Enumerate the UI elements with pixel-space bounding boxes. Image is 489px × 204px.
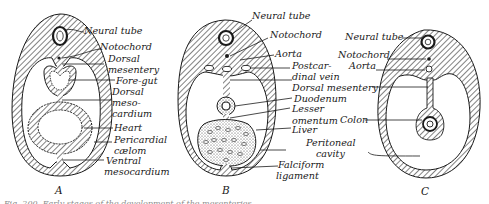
panel-label-c: C <box>421 185 429 197</box>
label-ventral-mesocardium-1: Ventral <box>106 155 141 166</box>
panel-label-a: A <box>54 184 63 196</box>
panel-label-b: B <box>221 184 230 196</box>
label-postcardinal-vein-2: dinal vein <box>292 71 340 82</box>
label-neural-tube-b: Neural tube <box>251 10 311 21</box>
notochord-c <box>427 57 431 61</box>
label-heart: Heart <box>113 122 142 133</box>
label-falciform-ligament-2: ligament <box>276 170 319 181</box>
dorsal-mesentery-b <box>223 74 230 98</box>
label-neural-tube-c: Neural tube <box>344 31 404 42</box>
postcardinal-vein-left <box>205 65 214 70</box>
label-notochord-a: Notochord <box>99 41 152 52</box>
dorsal-mesentery-a <box>57 62 63 72</box>
duodenum-lumen <box>222 102 230 110</box>
label-liver: Liver <box>291 124 319 135</box>
label-fore-gut: Fore-gut <box>115 75 158 86</box>
label-aorta-c: Aorta <box>348 60 376 71</box>
label-colon: Colon <box>340 114 368 125</box>
notochord-a <box>57 56 60 59</box>
figure-caption-partial: Fig. 200. Early stages of the developmen… <box>3 199 259 204</box>
label-pericardial-coelom-1: Pericardial <box>113 134 167 145</box>
aorta-c <box>426 66 432 72</box>
notochord-b <box>225 54 229 58</box>
label-notochord-c: Notochord <box>337 49 390 60</box>
label-peritoneal-cavity-2: cavity <box>316 148 345 159</box>
ventral-mesocardium <box>57 153 63 164</box>
postcardinal-vein-right <box>242 65 251 70</box>
label-ventral-mesocardium-2: mesocardium <box>104 166 170 177</box>
label-aorta-b: Aorta <box>274 48 302 59</box>
falciform-ligament <box>223 164 229 172</box>
label-dorsal-mesocardium-3: cardium <box>112 108 152 119</box>
label-dorsal-mesentery-b: Dorsal mesentery <box>291 82 378 93</box>
label-dorsal-mesocardium-2: meso- <box>112 97 141 108</box>
label-dorsal-mesentery-a-1: Dorsal <box>107 53 140 64</box>
label-notochord-b: Notochord <box>269 29 322 40</box>
panel-a: Neural tube Notochord Dorsal mesentery F… <box>12 14 170 196</box>
label-dorsal-mesocardium-1: Dorsal <box>111 86 144 97</box>
label-falciform-ligament-1: Falciform <box>277 159 324 170</box>
aorta-b <box>223 66 232 71</box>
label-postcardinal-vein-1: Postcar- <box>291 60 332 71</box>
colon-lumen <box>427 121 433 127</box>
label-dorsal-mesentery-a-2: mesentery <box>108 64 160 75</box>
label-neural-tube-a: Neural tube <box>83 25 143 36</box>
label-lesser-omentum-1: Lesser <box>291 103 326 114</box>
label-peritoneal-cavity-1: Peritoneal <box>305 137 356 148</box>
embryo-cross-section-figure: Neural tube Notochord Dorsal mesentery F… <box>0 0 489 204</box>
panel-c: Neural tube Notochord Aorta Colon C <box>337 30 480 197</box>
heart-lumen <box>38 110 82 144</box>
